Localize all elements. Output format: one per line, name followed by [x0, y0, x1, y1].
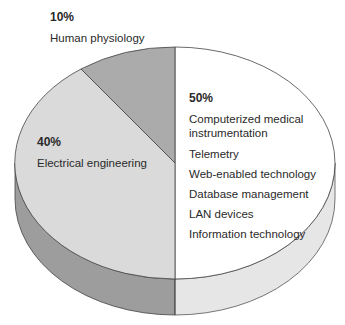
human-physiology-percent: 10%: [50, 10, 74, 24]
human-physiology-label: Human physiology: [50, 31, 145, 45]
computerized-label-line1: Computerized medical: [189, 112, 303, 126]
computerized-item-it: Information technology: [189, 227, 305, 241]
electrical-engineering-percent: 40%: [37, 135, 61, 149]
computerized-percent: 50%: [189, 91, 213, 105]
computerized-item-telemetry: Telemetry: [189, 147, 239, 161]
electrical-engineering-label: Electrical engineering: [37, 156, 147, 170]
computerized-item-database: Database management: [189, 187, 309, 201]
computerized-item-lan: LAN devices: [189, 207, 254, 221]
computerized-item-web: Web-enabled technology: [189, 167, 316, 181]
computerized-label-line2: instrumentation: [189, 126, 268, 140]
